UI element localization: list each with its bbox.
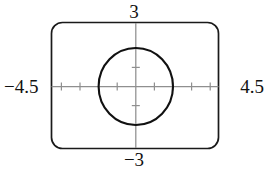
x-max-label: 4.5 [240,77,264,96]
y-max-label: 3 [0,2,268,21]
graph-canvas [0,0,268,172]
y-min-label: −3 [0,150,268,169]
x-min-label: −4.5 [4,77,38,96]
screen-border [52,23,219,149]
graphing-calculator-figure: 3 −3 −4.5 4.5 [0,0,268,172]
